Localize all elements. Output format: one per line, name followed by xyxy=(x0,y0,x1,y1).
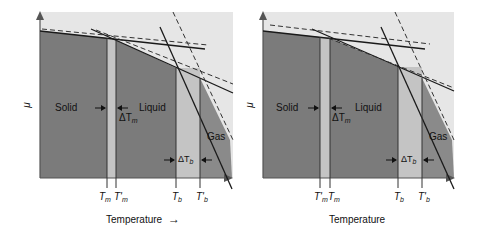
liquid-label: Liquid xyxy=(139,103,166,113)
tick-tb: Tb xyxy=(172,192,182,203)
right-diagram-graphic xyxy=(240,0,481,244)
delta-tm-label: ΔTm xyxy=(332,113,351,124)
melting-gap-band xyxy=(320,37,330,178)
solid-label: Solid xyxy=(55,103,77,113)
tick-tm: Tm xyxy=(328,192,340,203)
y-axis-label: μ xyxy=(245,102,255,107)
x-axis-label: Temperature xyxy=(329,215,385,225)
delta-tb-label: ΔTb xyxy=(178,155,193,165)
y-axis-label: μ xyxy=(22,102,32,107)
x-axis-label-arrow-icon: → xyxy=(168,213,180,225)
x-axis-label: Temperature xyxy=(106,215,162,225)
gas-label: Gas xyxy=(207,132,225,142)
delta-tb-label: ΔTb xyxy=(401,155,416,165)
tick-tb: Tb xyxy=(394,192,404,203)
solid-label: Solid xyxy=(276,103,298,113)
tick-tb-prime: T'b xyxy=(418,192,430,203)
delta-tm-label: ΔTm xyxy=(119,113,138,124)
tick-tm-prime: T'm xyxy=(114,192,128,203)
tick-tb-prime: T'b xyxy=(196,192,208,203)
tick-tm-prime: T'm xyxy=(314,192,328,203)
right-phase-diagram: μ Solid Liquid Gas ΔTm ΔTb T'm Tm Tb T'b… xyxy=(240,0,480,244)
gas-label: Gas xyxy=(429,132,447,142)
liquid-label: Liquid xyxy=(355,103,382,113)
tick-tm: Tm xyxy=(99,192,111,203)
left-phase-diagram: μ Solid Liquid Gas ΔTm ΔTb Tm T'm Tb T'b… xyxy=(0,0,240,244)
melting-gap-band xyxy=(107,38,116,178)
